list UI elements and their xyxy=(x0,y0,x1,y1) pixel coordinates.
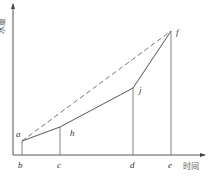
y-axis-label: 水量 xyxy=(0,18,6,34)
dashed-line-a-f xyxy=(22,31,171,141)
tick-label-d: d xyxy=(130,161,135,170)
point-label-a: a xyxy=(16,130,21,139)
tick-label-b: b xyxy=(18,161,23,170)
tick-label-e: e xyxy=(168,161,172,170)
point-label-h: h xyxy=(70,129,75,138)
x-axis-label: 时间 xyxy=(183,163,199,171)
point-label-f: f xyxy=(176,28,179,37)
point-label-j: j xyxy=(139,86,142,95)
tick-label-c: c xyxy=(57,161,61,170)
